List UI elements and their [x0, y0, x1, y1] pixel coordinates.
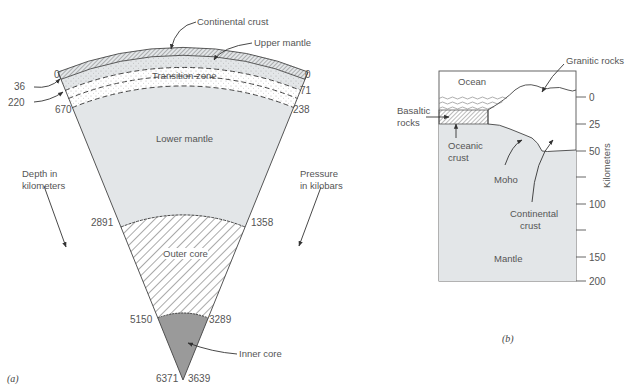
pressure-0: 0	[305, 69, 311, 80]
depth-2891: 2891	[91, 217, 113, 228]
pressure-71: 71	[300, 85, 311, 96]
pressure-axis-label-2: in kilobars	[300, 180, 343, 191]
depth-axis-label-2: kilometers	[22, 180, 65, 191]
label-lower-mantle: Lower mantle	[156, 133, 213, 144]
pressure-3639: 3639	[188, 373, 210, 384]
depth-220: 220	[8, 97, 25, 108]
pressure-3289: 3289	[209, 314, 231, 325]
label-continental-crust-b-1: Continental	[510, 208, 558, 219]
tick-25: 25	[589, 119, 600, 130]
pressure-238: 238	[293, 104, 310, 115]
label-upper-mantle: Upper mantle	[254, 37, 311, 48]
depth-0: 0	[54, 69, 60, 80]
tick-200: 200	[589, 276, 606, 287]
label-inner-core: Inner core	[239, 348, 282, 359]
label-ocean: Ocean	[458, 76, 486, 87]
depth-axis-label-1: Depth in	[22, 168, 57, 179]
label-basaltic-2: rocks	[397, 117, 420, 128]
label-oceanic-crust-2: crust	[448, 152, 469, 163]
tick-150: 150	[589, 252, 606, 263]
depth-670: 670	[55, 104, 72, 115]
figure-a-wedge	[58, 47, 308, 380]
label-continental-crust-b-2: crust	[520, 220, 541, 231]
kilometers-axis-label: Kilometers	[601, 143, 612, 188]
caption-a: (a)	[7, 373, 19, 384]
tick-50: 50	[589, 146, 600, 157]
earth-interior-diagram	[0, 0, 633, 388]
tick-0: 0	[589, 92, 595, 103]
label-moho: Moho	[494, 174, 518, 185]
label-oceanic-crust-1: Oceanic	[448, 140, 483, 151]
depth-6371: 6371	[156, 373, 178, 384]
label-outer-core: Outer core	[163, 248, 208, 259]
tick-100: 100	[589, 199, 606, 210]
label-continental-crust: Continental crust	[197, 16, 268, 27]
label-transition-zone: Transition zone	[152, 70, 217, 81]
depth-36: 36	[14, 81, 25, 92]
pressure-axis-label-1: Pressure	[300, 168, 338, 179]
label-basaltic-1: Basaltic	[397, 105, 430, 116]
pressure-1358: 1358	[251, 217, 273, 228]
label-granitic-rocks: Granitic rocks	[566, 55, 624, 66]
label-mantle: Mantle	[494, 253, 523, 264]
depth-5150: 5150	[130, 314, 152, 325]
inner-core-region	[158, 313, 208, 380]
kilometers-axis	[576, 97, 586, 281]
caption-b: (b)	[502, 333, 514, 344]
